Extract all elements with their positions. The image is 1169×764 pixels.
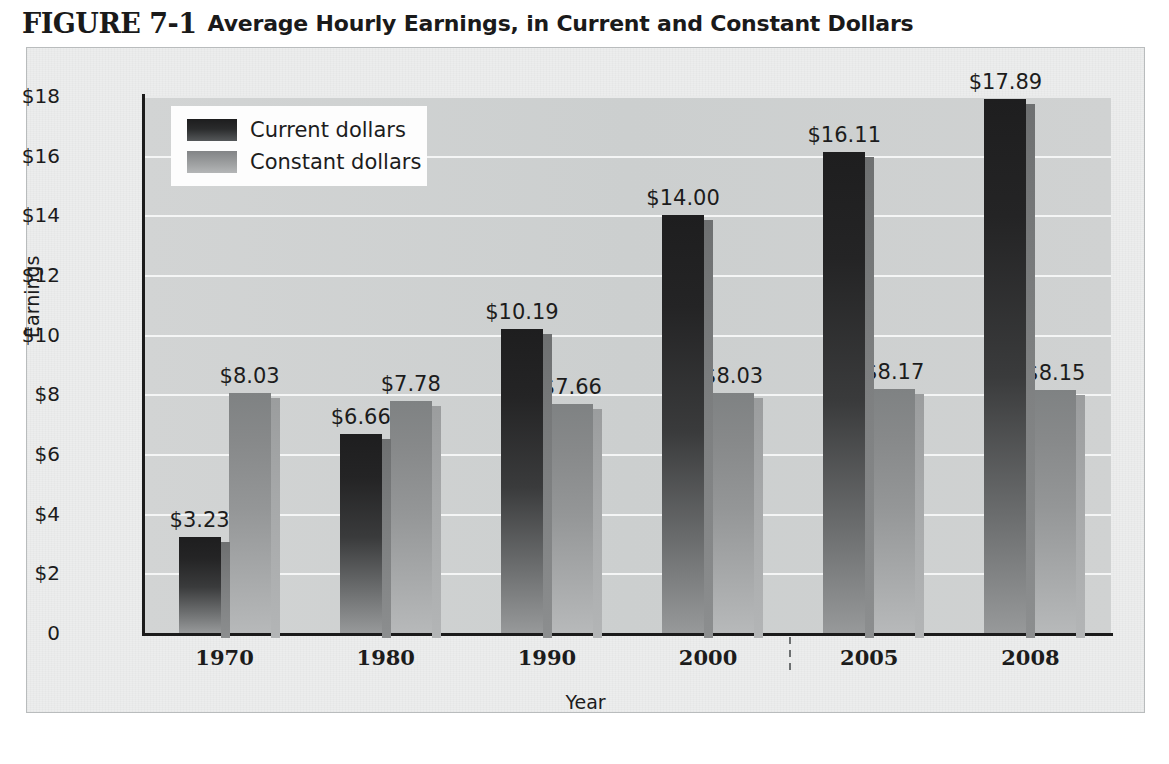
bar-value-label: $8.03	[220, 364, 280, 388]
bar-value-label: $6.66	[331, 405, 391, 429]
bar-side-shadow	[1076, 395, 1085, 638]
bar-1970-constant[interactable]: $8.03	[229, 393, 271, 633]
y-axis-tick-2: $2	[0, 561, 60, 585]
legend-item-constant-dollars[interactable]: Constant dollars	[187, 150, 427, 174]
bar-value-label: $14.00	[646, 186, 719, 210]
axis-break-marker	[789, 637, 791, 673]
gridline	[144, 275, 1111, 277]
legend-label-current-dollars: Current dollars	[250, 118, 406, 142]
y-axis-tick-14: $14	[0, 203, 60, 227]
bar-face	[501, 329, 543, 633]
bar-value-label: $10.19	[485, 300, 558, 324]
bar-face	[179, 537, 221, 633]
x-axis-tick-1990: 1990	[518, 645, 576, 670]
bar-value-label: $16.11	[808, 123, 881, 147]
bar-value-label: $17.89	[969, 70, 1042, 94]
bar-1980-current[interactable]: $6.66	[340, 434, 382, 633]
y-axis-tick-8: $8	[0, 382, 60, 406]
gridline	[144, 215, 1111, 217]
bar-2008-constant[interactable]: $8.15	[1034, 390, 1076, 633]
bar-2005-constant[interactable]: $8.17	[873, 389, 915, 633]
bar-face	[712, 393, 754, 633]
bar-2000-constant[interactable]: $8.03	[712, 393, 754, 633]
gridline	[144, 335, 1111, 337]
bar-side-shadow	[865, 157, 874, 638]
bar-1970-current[interactable]: $3.23	[179, 537, 221, 633]
y-axis-line	[142, 94, 145, 635]
chart-legend: Current dollars Constant dollars	[171, 106, 427, 186]
bar-face	[873, 389, 915, 633]
bar-side-shadow	[1026, 104, 1035, 638]
bar-side-shadow	[593, 409, 602, 638]
gridline	[144, 454, 1111, 456]
x-axis-title: Year	[27, 691, 1144, 713]
bar-side-shadow	[382, 439, 391, 638]
legend-item-current-dollars[interactable]: Current dollars	[187, 118, 427, 142]
bar-2008-current[interactable]: $17.89	[984, 99, 1026, 633]
bar-side-shadow	[543, 334, 552, 638]
legend-label-constant-dollars: Constant dollars	[250, 150, 421, 174]
x-axis-tick-2005: 2005	[840, 645, 898, 670]
bar-value-label: $3.23	[170, 508, 230, 532]
bar-side-shadow	[915, 394, 924, 638]
y-axis-title: Earnings	[21, 256, 43, 338]
bar-side-shadow	[754, 398, 763, 638]
bar-side-shadow	[271, 398, 280, 638]
y-axis-tick-16: $16	[0, 144, 60, 168]
bar-side-shadow	[221, 542, 230, 638]
bar-2005-current[interactable]: $16.11	[823, 152, 865, 633]
bar-value-label: $7.78	[381, 372, 441, 396]
bar-face	[229, 393, 271, 633]
figure-caption: Average Hourly Earnings, in Current and …	[208, 11, 914, 36]
gridline	[144, 573, 1111, 575]
figure-title: FIGURE 7-1 Average Hourly Earnings, in C…	[22, 2, 1142, 44]
gridline	[144, 394, 1111, 396]
bar-face	[662, 215, 704, 633]
bar-side-shadow	[432, 406, 441, 638]
bar-face	[984, 99, 1026, 633]
x-axis-tick-2008: 2008	[1001, 645, 1059, 670]
x-axis-tick-2000: 2000	[679, 645, 737, 670]
y-axis-tick-18: $18	[0, 84, 60, 108]
legend-swatch-constant-dollars	[187, 151, 237, 173]
legend-swatch-current-dollars	[187, 119, 237, 141]
bar-face	[823, 152, 865, 633]
bar-2000-current[interactable]: $14.00	[662, 215, 704, 633]
x-axis-line	[142, 633, 1113, 636]
bar-face	[1034, 390, 1076, 633]
y-axis-tick-6: $6	[0, 442, 60, 466]
bar-face	[390, 401, 432, 633]
figure-frame: $3.23$6.66$10.19$14.00$16.11$17.89$8.03$…	[26, 47, 1145, 713]
bar-side-shadow	[704, 220, 713, 638]
bar-1990-constant[interactable]: $7.66	[551, 404, 593, 633]
bar-1990-current[interactable]: $10.19	[501, 329, 543, 633]
bar-1980-constant[interactable]: $7.78	[390, 401, 432, 633]
figure-number: FIGURE 7-1	[22, 8, 197, 39]
bar-face	[340, 434, 382, 633]
y-axis-tick-4: $4	[0, 502, 60, 526]
y-axis-tick-0: 0	[0, 621, 60, 645]
bar-face	[551, 404, 593, 633]
gridline	[144, 514, 1111, 516]
x-axis-tick-1970: 1970	[195, 645, 253, 670]
x-axis-tick-1980: 1980	[357, 645, 415, 670]
gridline	[144, 96, 1111, 98]
